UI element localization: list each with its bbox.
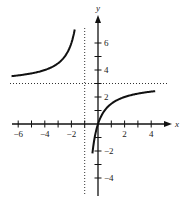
left-branch-curve <box>12 30 75 77</box>
x-tick-label: 2 <box>122 129 127 139</box>
axes <box>12 15 172 196</box>
axis-ticks: −6−4−224−4−2246 <box>13 38 154 183</box>
y-axis-label: y <box>95 3 100 13</box>
asymptote-lines <box>10 28 168 196</box>
y-tick-label: 4 <box>104 65 109 75</box>
y-tick-label: 2 <box>104 92 109 102</box>
y-tick-label: −2 <box>104 146 114 156</box>
y-axis-arrow-icon <box>95 15 101 23</box>
curve-branches <box>12 30 156 154</box>
x-axis-label: x <box>174 119 179 129</box>
x-axis-arrow-icon <box>164 121 172 127</box>
x-tick-label: −2 <box>67 129 77 139</box>
right-branch-curve <box>92 91 155 153</box>
function-graph: −6−4−224−4−2246 x y <box>0 0 186 200</box>
y-tick-label: 6 <box>104 38 109 48</box>
x-tick-label: −4 <box>40 129 50 139</box>
x-tick-label: −6 <box>13 129 23 139</box>
y-tick-label: −4 <box>104 173 114 183</box>
x-tick-label: 4 <box>149 129 154 139</box>
